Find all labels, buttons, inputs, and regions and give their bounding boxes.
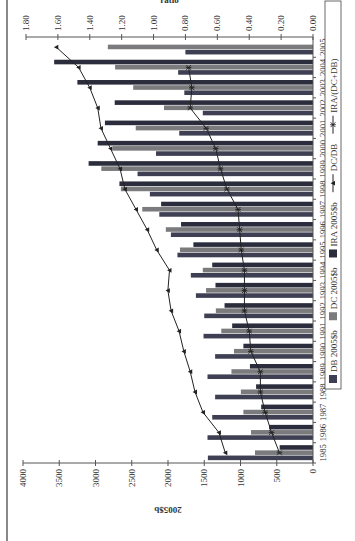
x-tick-label: 1985 [318, 444, 328, 461]
y-tick-label: 1000 [236, 469, 246, 488]
bar-dc-1999 [101, 166, 313, 171]
y2-axis-label: ratio [160, 0, 179, 5]
bar-db-1994 [191, 273, 313, 278]
y-tick-label: 3500 [54, 469, 64, 488]
y-tick-label: 1500 [199, 469, 209, 488]
legend-label: IRA 2005$b [329, 202, 339, 247]
bar-db-1992 [204, 314, 313, 319]
bar-db-1991 [204, 334, 313, 339]
bar-db-1998 [150, 192, 313, 197]
bar-db-1997 [159, 212, 313, 217]
legend-label: DC 2005$b [329, 267, 339, 309]
bar-ira-2001 [105, 121, 313, 126]
bar-db-1999 [138, 172, 313, 177]
bar-db-2001 [179, 131, 313, 136]
legend-item: DB 2005$b [329, 330, 339, 383]
bar-db-1986 [208, 435, 313, 440]
y2-tick-label: 1.40 [85, 15, 95, 31]
bar-dc-1992 [216, 308, 313, 313]
bar-ira-1998 [119, 181, 313, 186]
bar-ira-1994 [212, 263, 313, 268]
bar-ira-2002 [115, 100, 313, 105]
y-tick-label: 500 [272, 469, 282, 483]
triangle-marker-icon [108, 146, 112, 151]
y2-tick-label: 1.00 [149, 15, 159, 31]
bar-ira-1996 [181, 222, 313, 227]
bar-dc-2004 [115, 65, 313, 70]
bar-dc-1986 [251, 430, 313, 435]
bar-ira-1991 [232, 323, 313, 328]
bar-dc-1990 [234, 349, 313, 354]
bar-db-1990 [215, 354, 313, 359]
bar-db-1995 [177, 253, 313, 258]
bar-dc-1993 [206, 288, 313, 293]
bar-dc-2005 [108, 45, 313, 50]
bar-dc-1987 [243, 410, 313, 415]
legend-label: IRA/(DC+DB) [329, 59, 339, 113]
chart-stage: 050010001500200025003000350040000.000.20… [0, 0, 355, 541]
bar-dc-1997 [142, 207, 313, 212]
chart-legend: DB 2005$bDC 2005$bIRA 2005$bDC/DBIRA/(DC… [325, 1, 341, 389]
bar-ira-2004 [54, 60, 313, 65]
bar-db-1993 [196, 293, 313, 298]
bar-db-2003 [184, 90, 313, 95]
y2-tick-label: 0.60 [212, 15, 222, 31]
legend-label: DB 2005$b [329, 330, 339, 372]
y2-tick-label: 0.80 [180, 15, 190, 31]
bar-ira-1988 [256, 384, 313, 389]
triangle-marker-icon [54, 45, 58, 50]
bar-db-2004 [178, 70, 313, 75]
x-tick-label: 1986 [318, 423, 328, 441]
bar-ira-2003 [77, 80, 313, 85]
bar-db-1996 [171, 232, 313, 237]
y-tick-label: 2000 [163, 469, 173, 488]
bar-db-2002 [203, 111, 313, 116]
y2-tick-label: 1.20 [117, 15, 127, 31]
bar-ira-1993 [215, 283, 313, 288]
x-tick-label: 1987 [318, 403, 328, 421]
y2-tick-label: 1.80 [21, 15, 31, 31]
bar-ira-1995 [193, 242, 313, 247]
bar-dc-2002 [164, 106, 313, 111]
bar-ira-1990 [243, 344, 313, 349]
bar-dc-1989 [231, 369, 313, 374]
bar-ira-1989 [250, 364, 313, 369]
legend-swatch-icon [329, 312, 337, 320]
bar-db-1987 [212, 415, 313, 420]
bar-dc-1985 [255, 450, 313, 455]
bar-ira-1985 [280, 445, 313, 450]
bar-db-2000 [156, 151, 313, 156]
y-axis-label: 2005$b [154, 505, 182, 515]
bar-ira-2000 [98, 141, 313, 146]
bar-dc-2001 [136, 126, 313, 131]
bar-dc-1991 [221, 329, 313, 334]
bar-dc-1998 [121, 187, 313, 192]
bar-dc-1988 [241, 390, 313, 395]
y2-tick-label: 0.00 [308, 15, 318, 31]
y2-tick-label: 0.20 [276, 15, 286, 31]
legend-swatch-icon [329, 249, 337, 257]
triangle-marker-icon [154, 248, 158, 253]
bar-dc-1995 [180, 248, 313, 253]
triangle-marker-icon [87, 85, 91, 90]
legend-swatch-icon [329, 375, 337, 383]
bar-db-2005 [185, 50, 313, 55]
bar-line-chart: 050010001500200025003000350040000.000.20… [0, 0, 355, 541]
bar-ira-1986 [269, 425, 313, 430]
bar-ira-1999 [89, 161, 313, 166]
bar-ira-1992 [225, 303, 313, 308]
legend-item: DC 2005$b [329, 267, 339, 320]
bar-ira-1997 [161, 202, 313, 207]
y2-tick-label: 0.40 [244, 15, 254, 31]
bar-db-1985 [208, 456, 313, 461]
y-tick-label: 3000 [91, 469, 101, 488]
y2-tick-label: 1.60 [53, 15, 63, 31]
triangle-marker-icon [134, 207, 138, 212]
bar-dc-2003 [133, 85, 313, 90]
y-tick-label: 4000 [18, 469, 28, 488]
legend-label: DC/DB [329, 144, 339, 172]
bar-series-group [54, 45, 313, 461]
y-tick-label: 2500 [127, 469, 137, 488]
bar-dc-1994 [203, 268, 313, 273]
triangle-marker-icon [145, 227, 149, 232]
